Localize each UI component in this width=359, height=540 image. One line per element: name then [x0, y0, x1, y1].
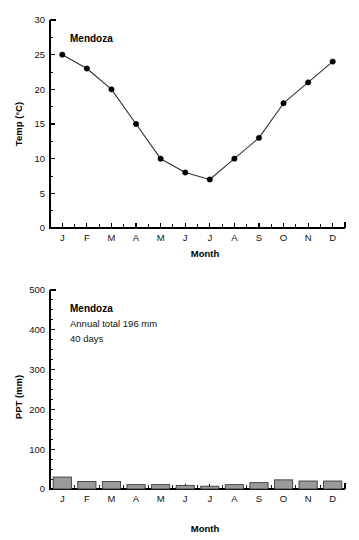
temperature-x-tick-label: D	[329, 232, 336, 243]
temperature-series	[60, 52, 336, 182]
temperature-y-tick-label: 25	[34, 49, 45, 60]
temperature-y-tick-label: 5	[40, 188, 45, 199]
temperature-x-tick-label: O	[280, 232, 287, 243]
precipitation-x-tick-label: A	[231, 493, 238, 504]
precipitation-bar	[299, 481, 317, 489]
temperature-chart-panel: 051015202530 JFMAMJJASOND Mendoza Temp (…	[0, 0, 359, 265]
temperature-x-tick-label: A	[231, 232, 238, 243]
precipitation-y-tick-label: 100	[29, 444, 45, 455]
precipitation-annotation-annual-total: Annual total 196 mm	[70, 318, 157, 329]
temperature-chart-title: Mendoza	[70, 33, 113, 44]
precipitation-x-tick-label: S	[256, 493, 262, 504]
precipitation-x-tick-label: J	[207, 493, 212, 504]
precipitation-bar	[127, 485, 145, 489]
precipitation-bar	[250, 483, 268, 489]
temperature-y-tick-label: 0	[40, 222, 45, 233]
temperature-data-point	[330, 59, 335, 64]
precipitation-bar	[201, 486, 219, 489]
temperature-data-point	[158, 156, 163, 161]
temperature-plot: 051015202530 JFMAMJJASOND Mendoza Temp (…	[0, 0, 359, 265]
precipitation-bar	[53, 477, 71, 489]
precipitation-x-tick-label: D	[329, 493, 336, 504]
precipitation-x-tick-label: J	[60, 493, 65, 504]
temperature-data-point	[207, 177, 212, 182]
precipitation-bar	[225, 485, 243, 489]
temperature-x-tick-label: M	[107, 232, 115, 243]
precipitation-annotation-rain-days: 40 days	[70, 333, 104, 344]
precipitation-bar	[324, 481, 342, 489]
precipitation-x-tick-label: J	[183, 493, 188, 504]
precipitation-y-tick-label: 500	[29, 284, 45, 295]
temperature-y-ticks: 051015202530	[34, 14, 55, 233]
temperature-x-tick-label: J	[207, 232, 212, 243]
precipitation-x-axis-label: Month	[191, 523, 220, 534]
temperature-data-point	[60, 52, 65, 57]
temperature-data-point	[256, 135, 261, 140]
precipitation-plot: 0100200300400500 JFMAMJJASOND Mendoza An…	[0, 272, 359, 540]
temperature-data-point	[232, 156, 237, 161]
precipitation-bar	[102, 481, 120, 489]
precipitation-x-tick-label: F	[84, 493, 90, 504]
temperature-y-tick-label: 15	[34, 118, 45, 129]
precipitation-y-ticks: 0100200300400500	[29, 284, 55, 494]
temperature-axes	[50, 20, 345, 228]
precipitation-x-tick-label: M	[107, 493, 115, 504]
temperature-y-axis-label: Temp (°C)	[13, 102, 24, 146]
temperature-x-tick-label: S	[256, 232, 262, 243]
temperature-x-tick-label: A	[133, 232, 140, 243]
precipitation-y-tick-label: 200	[29, 404, 45, 415]
temperature-x-ticks: JFMAMJJASOND	[50, 223, 345, 243]
precipitation-bar	[274, 480, 292, 489]
temperature-y-tick-label: 30	[34, 14, 45, 25]
temperature-x-axis-label: Month	[191, 248, 220, 259]
temperature-axis-frame	[50, 20, 345, 228]
temperature-data-point	[133, 121, 138, 126]
precipitation-x-tick-label: O	[280, 493, 287, 504]
precipitation-y-axis-label: PPT (mm)	[13, 375, 24, 419]
temperature-data-line	[62, 55, 332, 180]
precipitation-y-tick-label: 300	[29, 364, 45, 375]
temperature-x-tick-label: M	[157, 232, 165, 243]
precipitation-x-tick-label: N	[305, 493, 312, 504]
precipitation-x-tick-label: M	[157, 493, 165, 504]
temperature-x-tick-label: N	[305, 232, 312, 243]
temperature-y-tick-label: 20	[34, 84, 45, 95]
precipitation-bar	[176, 485, 194, 489]
climate-figure: 051015202530 JFMAMJJASOND Mendoza Temp (…	[0, 0, 359, 540]
temperature-data-point	[183, 170, 188, 175]
precipitation-annotation-station: Mendoza	[70, 303, 113, 314]
precipitation-y-tick-label: 400	[29, 324, 45, 335]
temperature-data-point	[305, 80, 310, 85]
temperature-data-point	[84, 66, 89, 71]
precipitation-bar	[152, 485, 170, 489]
precipitation-x-tick-label: A	[133, 493, 140, 504]
precipitation-y-tick-label: 0	[40, 483, 45, 494]
temperature-y-tick-label: 10	[34, 153, 45, 164]
temperature-x-tick-label: J	[183, 232, 188, 243]
temperature-x-tick-label: F	[84, 232, 90, 243]
temperature-data-point	[109, 87, 114, 92]
temperature-x-tick-label: J	[60, 232, 65, 243]
precipitation-bar	[78, 481, 96, 489]
precipitation-chart-panel: 0100200300400500 JFMAMJJASOND Mendoza An…	[0, 272, 359, 540]
temperature-data-point	[281, 101, 286, 106]
